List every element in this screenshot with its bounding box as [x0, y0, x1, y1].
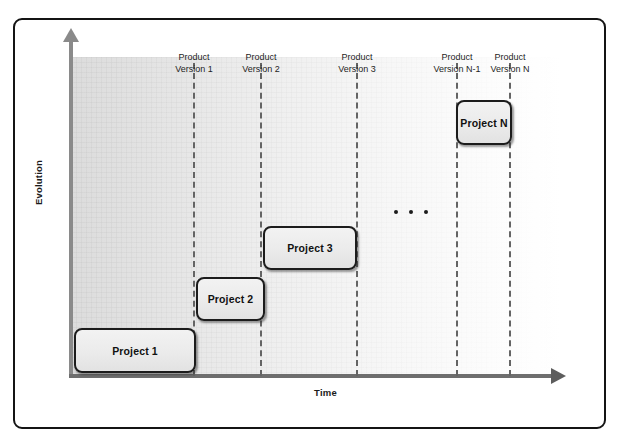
- project-box[interactable]: Project 2: [196, 277, 265, 321]
- version-marker-label: ProductVersion 1: [175, 52, 213, 75]
- x-axis-line: [69, 374, 553, 378]
- y-axis-title: Evolution: [33, 95, 44, 205]
- ellipsis-dot: [424, 210, 428, 214]
- project-box[interactable]: Project 1: [74, 328, 196, 373]
- ellipsis-dot: [409, 210, 413, 214]
- ellipsis-dot: [394, 210, 398, 214]
- x-axis-title: Time: [0, 387, 619, 398]
- project-box[interactable]: Project N: [456, 100, 512, 145]
- version-marker-label: ProductVersion 3: [338, 52, 376, 75]
- version-label-line2: Version N-1: [433, 64, 480, 76]
- version-label-line1: Product: [433, 52, 480, 64]
- version-label-line2: Version 3: [338, 64, 376, 76]
- version-marker-line: [356, 63, 358, 376]
- version-label-line2: Version N: [490, 64, 529, 76]
- project-box-label: Project 3: [287, 242, 333, 254]
- version-label-line2: Version 1: [175, 64, 213, 76]
- arrow-right-icon: [551, 368, 566, 384]
- project-box-label: Project 1: [112, 345, 158, 357]
- version-marker-line: [260, 63, 262, 376]
- version-marker-label: ProductVersion 2: [242, 52, 280, 75]
- project-box-label: Project N: [460, 117, 507, 129]
- version-label-line1: Product: [242, 52, 280, 64]
- ellipsis-icon: [394, 207, 428, 217]
- project-box-label: Project 2: [208, 293, 254, 305]
- figure-canvas: Evolution Time ProductVersion 1ProductVe…: [0, 0, 619, 447]
- project-box[interactable]: Project 3: [263, 226, 357, 270]
- version-label-line1: Product: [490, 52, 529, 64]
- arrow-up-icon: [63, 28, 79, 42]
- version-label-line1: Product: [338, 52, 376, 64]
- version-marker-label: ProductVersion N-1: [433, 52, 480, 75]
- version-label-line2: Version 2: [242, 64, 280, 76]
- version-marker-label: ProductVersion N: [490, 52, 529, 75]
- y-axis-line: [69, 40, 73, 377]
- version-label-line1: Product: [175, 52, 213, 64]
